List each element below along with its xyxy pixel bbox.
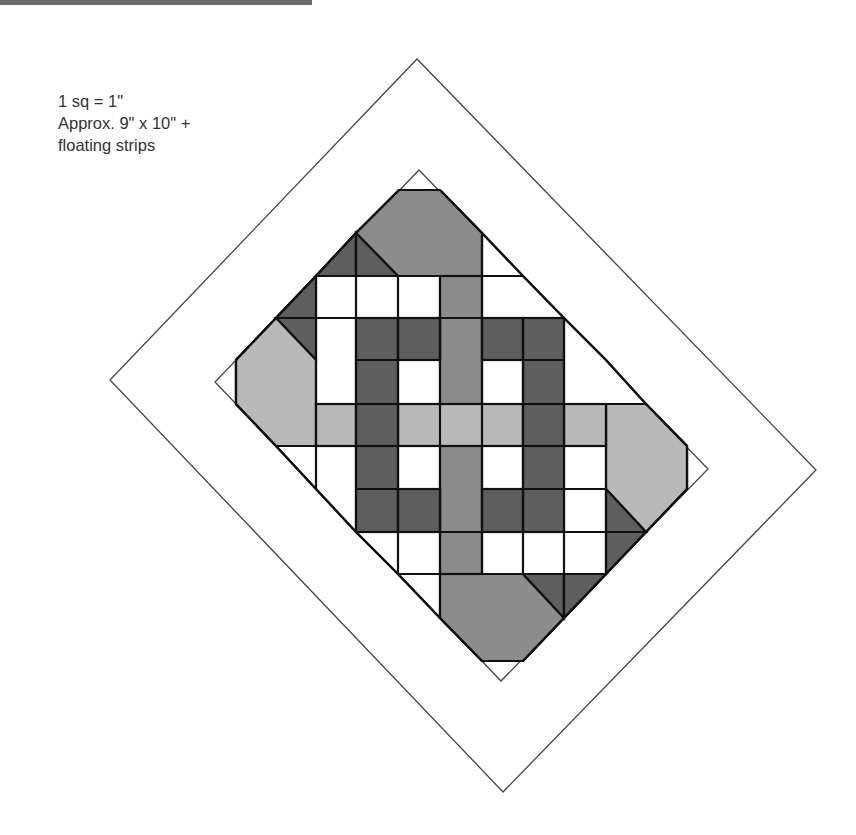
dark-square: [398, 318, 440, 360]
dark-column-cross: [356, 404, 398, 446]
dark-square: [482, 489, 523, 532]
dark-square: [482, 318, 523, 360]
dark-square: [398, 489, 440, 532]
dark-column-cross: [523, 404, 564, 446]
quilt-diagram: [0, 0, 856, 835]
